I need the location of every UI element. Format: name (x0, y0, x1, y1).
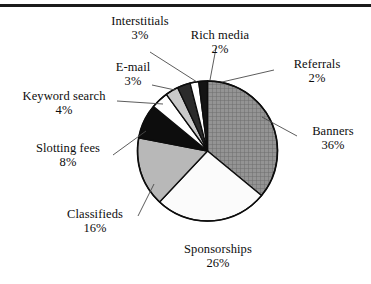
slice-label-referrals: Referrals 2% (277, 57, 357, 85)
slice-label-pct: 16% (52, 221, 138, 235)
pie-chart-figure: Interstitials 3% Rich media 2% Referrals… (0, 0, 371, 284)
slice-label-sponsorships: Sponsorships 26% (166, 242, 270, 270)
slice-label-banners: Banners 36% (300, 124, 366, 152)
slice-label-pct: 3% (97, 28, 183, 42)
slice-label-name: Keyword search (8, 89, 120, 103)
slice-label-pct: 36% (300, 138, 366, 152)
slice-label-email: E-mail 3% (103, 60, 163, 88)
slice-label-name: Referrals (277, 57, 357, 71)
slice-label-name: Interstitials (97, 14, 183, 28)
slice-label-rich-media: Rich media 2% (178, 28, 262, 56)
slice-label-interstitials: Interstitials 3% (97, 14, 183, 42)
slice-label-name: Classifieds (52, 207, 138, 221)
slice-label-pct: 3% (103, 74, 163, 88)
slice-label-keyword-search: Keyword search 4% (8, 89, 120, 117)
slice-label-pct: 26% (166, 256, 270, 270)
slice-label-name: E-mail (103, 60, 163, 74)
leader-line-classifieds (138, 184, 154, 216)
slice-label-name: Banners (300, 124, 366, 138)
slice-label-slotting-fees: Slotting fees 8% (22, 141, 114, 169)
slice-label-classifieds: Classifieds 16% (52, 207, 138, 235)
slice-label-name: Slotting fees (22, 141, 114, 155)
slice-label-name: Sponsorships (166, 242, 270, 256)
slice-label-pct: 8% (22, 155, 114, 169)
slice-label-name: Rich media (178, 28, 262, 42)
leader-line-referrals (222, 70, 274, 82)
slice-label-pct: 4% (8, 103, 120, 117)
slice-label-pct: 2% (277, 71, 357, 85)
slice-label-pct: 2% (178, 42, 262, 56)
